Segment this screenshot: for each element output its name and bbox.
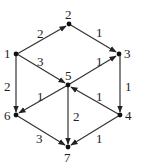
graph-canvas: 1 2 3 4 5 6 7 2 1 3 1 2 1 1 1 2 3 1	[0, 0, 142, 166]
node-label-5: 5	[65, 68, 72, 83]
weight-1-2: 2	[37, 26, 44, 41]
node-label-6: 6	[4, 108, 11, 123]
edge-5-3	[68, 56, 116, 85]
node-6	[14, 113, 19, 118]
weight-4-5: 1	[96, 89, 103, 104]
edge-2-3	[69, 24, 116, 52]
node-label-1: 1	[4, 46, 11, 61]
edge-5-6	[19, 85, 68, 113]
node-3	[117, 52, 122, 57]
node-4	[118, 113, 123, 118]
node-5	[66, 83, 71, 88]
node-7	[66, 145, 71, 150]
weight-1-5: 3	[37, 54, 44, 69]
weight-6-7: 3	[36, 131, 43, 146]
node-1	[14, 52, 19, 57]
node-2	[67, 22, 72, 27]
node-label-2: 2	[65, 7, 72, 22]
weight-5-3: 1	[96, 54, 103, 69]
node-label-4: 4	[125, 108, 132, 123]
node-label-7: 7	[64, 150, 71, 165]
weight-4-7: 1	[96, 131, 103, 146]
weight-3-4: 1	[125, 79, 132, 94]
weight-1-6: 2	[4, 79, 11, 94]
weight-2-3: 1	[96, 25, 103, 40]
weight-5-7: 2	[73, 109, 80, 124]
node-label-3: 3	[124, 46, 131, 61]
weight-5-6: 1	[37, 89, 44, 104]
